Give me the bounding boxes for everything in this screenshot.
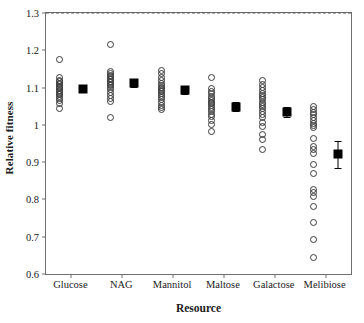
x-tick-label-glucose: Glucose <box>53 279 87 290</box>
y-tick-1-3: 1.3 <box>26 8 46 19</box>
y-tick-1-1: 1.1 <box>26 82 46 93</box>
error-bar-cap-upper <box>334 141 341 142</box>
data-point <box>310 193 317 200</box>
y-tick-1-2: 1.2 <box>26 45 46 56</box>
x-axis-title: Resource <box>45 302 352 314</box>
x-tick-label-melibiose: Melibiose <box>304 279 346 290</box>
x-tick-mark-galactose <box>274 274 275 278</box>
x-tick-label-galactose: Galactose <box>253 279 294 290</box>
mean-square <box>333 150 342 159</box>
error-bar-cap-lower <box>334 168 341 169</box>
data-point <box>310 219 317 226</box>
x-tick-mark-melibiose <box>325 274 326 278</box>
y-tick-label: 0.7 <box>26 231 42 242</box>
x-axis-title-label: Resource <box>176 302 221 314</box>
y-tick-1: 1 <box>34 119 46 130</box>
y-tick-label: 0.8 <box>26 194 42 205</box>
y-tick-label: 1.1 <box>26 82 42 93</box>
y-tick-0-8: 0.8 <box>26 194 46 205</box>
y-tick-0-6: 0.6 <box>26 269 46 280</box>
data-point <box>310 150 317 157</box>
y-tick-label: 1.2 <box>26 45 42 56</box>
x-tick-label-mannitol: Mannitol <box>153 279 192 290</box>
fitness-scatter-figure: Relative fitness 0.60.70.80.911.11.21.3 … <box>0 0 364 323</box>
y-axis-title-label: Relative fitness <box>3 101 15 174</box>
plot-area: 0.60.70.80.911.11.21.3 <box>45 12 352 275</box>
x-tick-mark-maltose <box>223 274 224 278</box>
y-tick-0-7: 0.7 <box>26 231 46 242</box>
x-tick-label-maltose: Maltose <box>206 279 240 290</box>
series-group-melibiose <box>46 13 351 274</box>
data-point <box>310 203 317 210</box>
x-tick-mark-glucose <box>71 274 72 278</box>
y-tick-label: 0.6 <box>26 269 42 280</box>
y-tick-label: 0.9 <box>26 157 42 168</box>
y-tick-label: 1 <box>34 119 42 130</box>
data-point <box>310 135 317 142</box>
y-axis-title: Relative fitness <box>0 0 18 275</box>
data-point <box>310 124 317 131</box>
data-point <box>310 161 317 168</box>
data-point <box>310 236 317 243</box>
y-tick-0-9: 0.9 <box>26 157 46 168</box>
data-point <box>310 170 317 177</box>
x-tick-mark-mannitol <box>173 274 174 278</box>
y-tick-label: 1.3 <box>26 8 42 19</box>
x-tick-label-nag: NAG <box>110 279 133 290</box>
data-point <box>310 254 317 261</box>
x-tick-mark-nag <box>122 274 123 278</box>
